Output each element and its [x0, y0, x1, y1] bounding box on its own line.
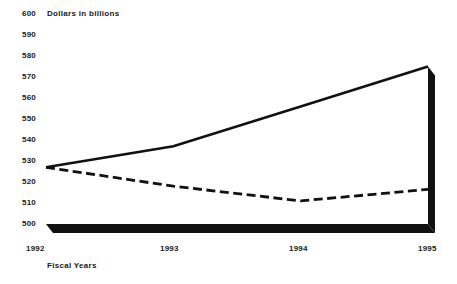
- chart-container: Dollars in billions 600 590 580 570 560 …: [0, 0, 457, 284]
- right-edge-wall-3d: [428, 67, 435, 234]
- series-line-dashed: [46, 167, 428, 201]
- baseline-slab-3d: [46, 224, 435, 233]
- plot-area: [0, 0, 457, 284]
- series-line-solid: [46, 67, 428, 168]
